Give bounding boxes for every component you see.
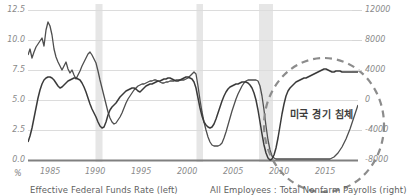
ytick-right-neg8000: -8000	[365, 155, 388, 164]
ytick-right-neg4000: -4000	[365, 125, 388, 134]
xtick-2005: 2005	[223, 167, 243, 176]
xtick-2000: 2000	[177, 167, 197, 176]
ytick-left-7_5: 7.5	[0, 65, 25, 74]
xtick-2015: 2015	[315, 167, 335, 176]
annotation-label-recession: 미국 경기 침체	[290, 106, 353, 121]
ytick-right-8000: 8000	[365, 35, 385, 44]
series-line-fed-funds-rate	[28, 22, 358, 159]
legend-item-nonfarm-payrolls: All Employees : Total Nonfarm Payrolls (…	[210, 185, 407, 195]
chart-legend: Effective Federal Funds Rate (left) All …	[0, 185, 420, 196]
ytick-right-4000: 4000	[365, 65, 385, 74]
ytick-left-5_0: 5.0	[0, 95, 25, 104]
xtick-2010: 2010	[269, 167, 289, 176]
ytick-left-2_5: 2.5	[0, 125, 25, 134]
ytick-left-12_5: 12.5	[0, 5, 25, 14]
left-axis-unit: %	[14, 169, 22, 178]
recession-band-1990	[96, 4, 103, 162]
chart-container: 12.5 10.0 7.5 5.0 2.5 0.0 % 12000 8000 4…	[0, 0, 420, 196]
ytick-left-10_0: 10.0	[0, 35, 25, 44]
ytick-left-0_0: 0.0	[0, 155, 25, 164]
chart-plot-area	[0, 0, 420, 196]
ytick-right-0: 0	[365, 95, 370, 104]
ytick-right-12000: 12000	[365, 5, 390, 14]
legend-item-fed-funds-rate: Effective Federal Funds Rate (left)	[30, 185, 178, 195]
xtick-1995: 1995	[131, 167, 151, 176]
xtick-1985: 1985	[40, 167, 60, 176]
xtick-1990: 1990	[85, 167, 105, 176]
right-axis-ticks	[352, 11, 362, 131]
